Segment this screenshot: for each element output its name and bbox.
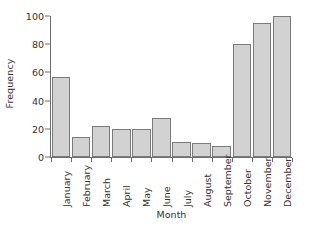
- y-axis-tick-label: 80: [32, 39, 44, 50]
- x-axis-tick-label: July: [172, 163, 192, 209]
- x-axis-tick-label: January: [51, 163, 71, 209]
- bar: [192, 143, 210, 157]
- y-axis-tick-mark: [45, 128, 50, 129]
- bar: [253, 23, 271, 157]
- plot-area: [51, 16, 292, 157]
- x-axis-tick-mark: [131, 158, 132, 162]
- y-axis-tick-label: 100: [26, 11, 44, 22]
- y-axis-tick-mark: [45, 16, 50, 17]
- y-axis-tick-mark: [45, 44, 50, 45]
- y-axis-tick-label: 40: [32, 95, 44, 106]
- x-axis-tick-mark: [192, 158, 193, 162]
- x-axis-tick-mark: [232, 158, 233, 162]
- bar-chart: Frequency 020406080100 JanuaryFebruaryMa…: [0, 0, 309, 235]
- x-axis-tick-label-text: December: [282, 158, 293, 207]
- x-axis-tick-mark: [91, 158, 92, 162]
- y-axis-tick-mark: [45, 72, 50, 73]
- bar: [72, 137, 90, 157]
- x-axis-tick-label: February: [71, 163, 91, 209]
- y-axis-tick-mark: [45, 157, 50, 158]
- x-axis-tick-label: April: [111, 163, 131, 209]
- x-axis-tick-label: May: [131, 163, 151, 209]
- x-axis-tick-label: December: [272, 163, 292, 209]
- y-axis-tick-label: 20: [32, 123, 44, 134]
- x-axis-tick-mark: [51, 158, 52, 162]
- bar: [233, 44, 251, 157]
- bar: [92, 126, 110, 157]
- x-axis-tick-mark: [272, 158, 273, 162]
- x-axis-tick-label: October: [232, 163, 252, 209]
- bar: [152, 118, 170, 157]
- x-axis-tick-labels: JanuaryFebruaryMarchAprilMayJuneJulyAugu…: [51, 163, 292, 209]
- x-axis-tick-label: November: [252, 163, 272, 209]
- x-axis-tick-mark: [172, 158, 173, 162]
- y-axis-tick-labels: 020406080100: [18, 0, 44, 235]
- x-axis-tick-mark: [111, 158, 112, 162]
- y-axis-tick-mark: [45, 100, 50, 101]
- y-axis-tick-label: 0: [38, 152, 44, 163]
- x-axis-tick-label: June: [151, 163, 171, 209]
- x-axis-tick-label: March: [91, 163, 111, 209]
- y-axis-title-text: Frequency: [5, 58, 16, 108]
- x-axis-tick-label: September: [212, 163, 232, 209]
- x-axis-tick-mark: [292, 158, 293, 162]
- x-axis-title: Month: [51, 209, 292, 220]
- bar: [273, 16, 291, 157]
- bar: [52, 77, 70, 157]
- bar: [112, 129, 130, 157]
- x-axis-tick-label: August: [192, 163, 212, 209]
- x-axis-tick-mark: [71, 158, 72, 162]
- bar: [132, 129, 150, 157]
- bar: [172, 142, 190, 158]
- y-axis-tick-label: 60: [32, 67, 44, 78]
- y-axis-title: Frequency: [2, 28, 18, 138]
- x-axis-tick-mark: [252, 158, 253, 162]
- x-axis-tick-mark: [212, 158, 213, 162]
- x-axis-tick-mark: [151, 158, 152, 162]
